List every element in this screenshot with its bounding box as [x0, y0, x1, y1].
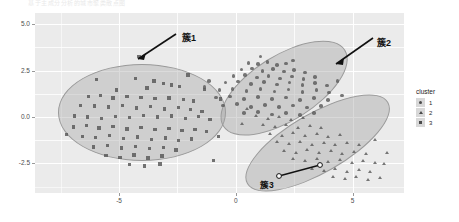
data-point: [212, 159, 215, 162]
x-axis-label: 5: [340, 197, 366, 204]
data-point: [125, 95, 128, 98]
data-point: [164, 136, 167, 139]
data-point: [345, 141, 349, 144]
data-point: [277, 115, 281, 118]
data-point: [302, 77, 306, 81]
data-point: [190, 137, 193, 140]
y-tick-mark: [32, 24, 35, 25]
data-point: [158, 162, 161, 165]
legend-item-2[interactable]: 2: [416, 108, 458, 117]
legend-item-label: 2: [429, 110, 432, 116]
data-point: [145, 86, 148, 89]
data-point: [81, 135, 84, 138]
data-point: [343, 177, 347, 180]
data-point: [139, 96, 142, 99]
data-point: [284, 123, 288, 126]
data-point: [259, 55, 263, 59]
data-point: [65, 133, 68, 136]
data-point: [273, 125, 277, 128]
data-point: [180, 129, 183, 132]
data-point: [72, 125, 75, 128]
data-point: [207, 79, 211, 83]
data-point: [125, 127, 128, 130]
data-point: [153, 97, 156, 100]
data-point: [224, 81, 228, 85]
data-point: [177, 106, 180, 109]
data-point: [319, 104, 323, 108]
data-point: [331, 175, 335, 178]
data-point: [203, 85, 207, 89]
data-point: [275, 140, 279, 143]
data-point: [249, 105, 253, 109]
data-point: [373, 138, 377, 141]
data-point: [85, 124, 88, 127]
legend-item-3[interactable]: 3: [416, 118, 458, 127]
data-point: [277, 105, 281, 109]
gridline-horizontal: [35, 163, 404, 164]
data-point: [99, 94, 102, 97]
data-point: [312, 96, 316, 100]
gridline-horizontal: [35, 24, 404, 25]
data-point: [245, 107, 249, 110]
data-point: [325, 84, 329, 88]
y-tick-mark: [32, 163, 35, 164]
data-point: [218, 88, 222, 92]
data-point: [364, 152, 368, 155]
data-point: [310, 143, 314, 146]
data-point: [73, 114, 76, 117]
data-point: [301, 83, 305, 87]
data-point: [266, 117, 270, 120]
data-point: [128, 163, 131, 166]
legend-item-1[interactable]: 1: [416, 98, 458, 107]
data-point: [301, 90, 305, 94]
figure-title: 基于主成分分析的城市聚类散点图: [28, 0, 238, 7]
data-point: [291, 131, 295, 134]
data-point: [266, 60, 270, 64]
data-point: [278, 77, 282, 81]
data-point: [208, 118, 211, 121]
data-point: [167, 127, 170, 130]
data-point: [92, 145, 95, 148]
data-point: [114, 115, 117, 118]
data-point: [275, 83, 279, 87]
data-point: [313, 75, 317, 79]
data-point: [322, 141, 326, 144]
data-point: [95, 78, 98, 81]
data-point: [249, 82, 253, 86]
data-point: [256, 95, 260, 99]
data-point: [284, 62, 288, 66]
data-point: [217, 135, 220, 138]
data-point: [122, 137, 125, 140]
y-axis-label: 5.0: [4, 20, 30, 27]
data-point: [235, 102, 239, 106]
data-point: [308, 124, 312, 127]
data-point: [135, 106, 138, 109]
data-point: [143, 164, 146, 167]
circle-marker-icon: [416, 98, 425, 107]
data-point: [170, 83, 173, 86]
data-point: [280, 134, 284, 137]
data-point: [350, 161, 354, 164]
data-point: [182, 98, 185, 101]
data-point: [303, 159, 307, 162]
data-point: [118, 156, 121, 159]
data-point: [79, 104, 82, 107]
data-point: [146, 156, 149, 159]
data-point: [298, 140, 302, 143]
data-point: [310, 167, 314, 170]
data-point: [290, 75, 294, 79]
triangle-marker-icon: [416, 108, 425, 117]
data-point: [189, 108, 192, 111]
data-point: [366, 178, 370, 181]
data-point: [132, 153, 135, 156]
data-point: [106, 144, 109, 147]
gridline-horizontal: [35, 187, 404, 188]
data-point: [200, 110, 203, 113]
data-point: [315, 88, 319, 92]
data-point: [255, 76, 259, 80]
legend-title: cluster: [416, 88, 458, 95]
y-tick-mark: [32, 71, 35, 72]
data-point: [262, 80, 266, 84]
cluster-annotation-3: 簇3: [260, 178, 274, 190]
data-point: [329, 149, 333, 152]
